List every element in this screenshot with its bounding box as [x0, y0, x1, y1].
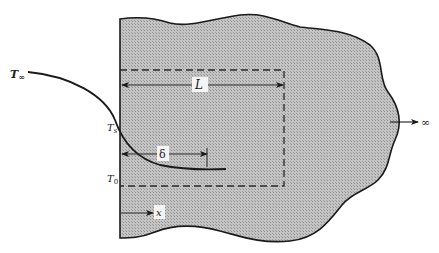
t-infinity-label: T∞: [10, 68, 25, 82]
t-zero-label: T0: [107, 173, 118, 186]
semi-infinite-solid-diagram: L δ x T∞ Ts T0 ∞: [0, 0, 439, 253]
delta-label: δ: [159, 148, 166, 161]
length-label: L: [194, 78, 203, 92]
infinity-label: ∞: [421, 116, 430, 129]
x-label: x: [156, 207, 162, 218]
